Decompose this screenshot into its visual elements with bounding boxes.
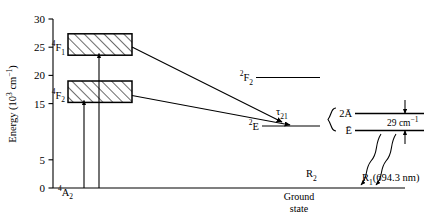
pump-band-4F1-box: [68, 34, 132, 55]
pump-band-4F2-box: [68, 81, 132, 102]
level-label-4F2-subscript: 2: [61, 95, 65, 104]
level-label-E-bar: Ē: [346, 125, 352, 136]
y-tick-label-20: 20: [34, 69, 46, 81]
level-label-2E-base: E: [253, 121, 259, 132]
splitting-unit: cm: [397, 118, 412, 128]
level-label-4A2-subscript: 2: [69, 192, 73, 201]
y-tick-label-15: 15: [34, 98, 46, 110]
y-tick-label-25: 25: [34, 41, 46, 53]
level-label-2A-bar: 2Ā: [339, 108, 352, 119]
ground-state-caption-line1: Ground: [284, 191, 315, 202]
label-tau21-subscript: 21: [280, 112, 288, 121]
splitting-unit-exponent: −1: [410, 115, 418, 124]
ground-state-caption-line2: state: [290, 203, 309, 214]
splitting-value: 29: [387, 118, 397, 128]
level-label-2F2-subscript: 2: [249, 78, 253, 87]
label-R1-detail: (694.3 nm): [373, 172, 420, 184]
label-R1-base: R: [362, 172, 369, 183]
level-label-4F1-subscript: 1: [61, 48, 65, 57]
y-axis-title-unit: cm: [7, 77, 18, 92]
y-tick-label-0: 0: [40, 182, 46, 194]
energy-level-diagram: 30 25 20 15 5 0 Energy (103 cm−1) 4F1 4F…: [0, 0, 441, 221]
y-tick-label-30: 30: [34, 13, 46, 25]
label-R2-subscript: 2: [313, 174, 317, 183]
label-R2-base: R: [306, 168, 313, 179]
y-axis-title-main: Energy (10: [7, 96, 19, 143]
y-axis-title-close: ): [7, 65, 19, 69]
y-tick-label-5: 5: [40, 154, 46, 166]
